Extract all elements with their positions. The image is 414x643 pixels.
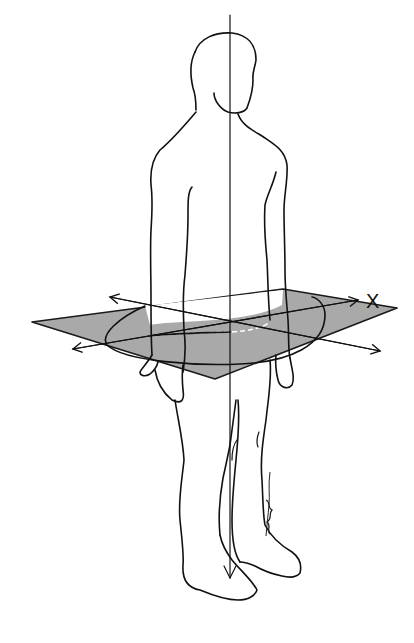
axis-label-x: X bbox=[366, 290, 379, 313]
diagram-canvas bbox=[0, 0, 414, 643]
artist-signature bbox=[258, 470, 280, 540]
anatomical-figure: X bbox=[0, 0, 414, 643]
